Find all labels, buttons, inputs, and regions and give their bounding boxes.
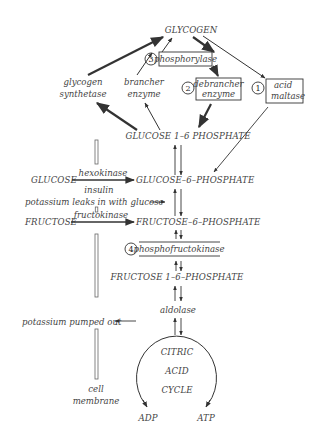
glucose-1-6-phosphate-node: GLUCOSE 1–6 PHOSPHATE <box>125 131 251 141</box>
phosphorylase-label: phosphorylase <box>154 54 217 64</box>
citric-label: CITRIC <box>161 347 194 357</box>
atp-node: ATP <box>196 413 215 423</box>
glycogen-node: GLYCOGEN <box>165 25 218 35</box>
brancher-enzyme-label-1: brancher <box>124 77 165 87</box>
hexokinase-label: hexokinase <box>79 168 128 178</box>
arrow-to-atp <box>206 400 210 407</box>
fructose-node: FRUCTOSE <box>24 217 78 227</box>
phosphofructokinase-label: phosphofructokinase <box>133 244 224 254</box>
potassium-leaks-note: potassium leaks in with glucose <box>25 197 164 207</box>
glucose-node: GLUCOSE <box>31 175 77 185</box>
acid-maltase-label-1: acid <box>274 80 293 90</box>
arrow-phosphorylase-to-debrancher <box>213 66 218 76</box>
arrow-glycogen-to-phosphorylase <box>193 37 214 52</box>
glycogen-synthetase-label-1: glycogen <box>63 77 102 87</box>
arrow-g16p-to-synthetase <box>97 103 137 130</box>
insulin-label: insulin <box>84 185 113 195</box>
fructokinase-label: fructokinase <box>73 210 128 220</box>
cell-membrane-label-2: membrane <box>73 396 120 406</box>
fructose-1-6-phosphate-node: FRUCTOSE 1–6–PHOSPHATE <box>110 272 245 282</box>
number-3: 3 <box>148 55 153 64</box>
glycogen-synthetase-label-2: synthetase <box>60 89 107 99</box>
fructose-6-phosphate-node: FRUCTOSE–6–PHOSPHATE <box>135 217 261 227</box>
glucose-6-phosphate-node: GLUCOSE–6–PHOSPHATE <box>136 175 255 185</box>
arrow-to-adp <box>143 400 147 407</box>
number-1: 1 <box>255 84 260 93</box>
potassium-pumped-note: potassium pumped out <box>22 317 122 327</box>
number-2: 2 <box>185 84 190 93</box>
cycle-label: CYCLE <box>161 385 193 395</box>
arrow-phosphorylase-box-to-glycogen <box>162 38 172 52</box>
adp-node: ADP <box>137 413 157 423</box>
acid-maltase-label-2: maltase <box>271 91 305 101</box>
debrancher-label-2: enzyme <box>202 89 235 99</box>
acid-label: ACID <box>164 366 188 376</box>
debrancher-label-1: debrancher <box>193 79 244 89</box>
aldolase-label: aldolase <box>160 305 196 315</box>
glycogen-metabolism-diagram: GLYCOGEN 3 phosphorylase glycogen synthe… <box>0 0 319 440</box>
arrow-g16p-to-brancher <box>145 103 160 130</box>
brancher-enzyme-label-2: enzyme <box>127 89 160 99</box>
arrow-debrancher-to-g16p <box>199 104 211 127</box>
cell-membrane-label-1: cell <box>88 384 104 394</box>
